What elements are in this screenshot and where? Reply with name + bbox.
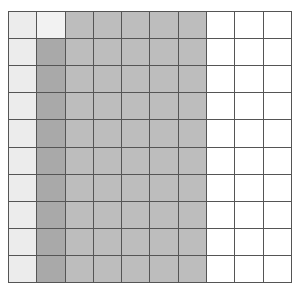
grid-cell xyxy=(122,12,150,39)
grid-cell xyxy=(122,39,150,66)
grid-cell xyxy=(207,148,235,175)
grid-cell xyxy=(235,202,263,229)
grid-cell xyxy=(9,39,37,66)
grid-cell xyxy=(122,66,150,93)
grid-cell xyxy=(235,148,263,175)
grid-cell xyxy=(37,175,65,202)
grid-cell xyxy=(66,256,94,283)
grid-cell xyxy=(179,175,207,202)
grid-cell xyxy=(207,93,235,120)
grid-cell xyxy=(66,12,94,39)
grid-cell xyxy=(150,66,178,93)
grid-cell xyxy=(9,120,37,147)
grid-cell xyxy=(150,229,178,256)
shaded-hundred-grid xyxy=(8,11,292,283)
grid-cell xyxy=(264,120,292,147)
grid-cell xyxy=(122,93,150,120)
grid-cell xyxy=(122,256,150,283)
grid-cell xyxy=(179,66,207,93)
grid-cell xyxy=(37,256,65,283)
grid-cell xyxy=(179,202,207,229)
grid-cell xyxy=(94,120,122,147)
grid-cell xyxy=(179,229,207,256)
grid-cell xyxy=(264,148,292,175)
grid-cell xyxy=(94,202,122,229)
grid-cell xyxy=(37,66,65,93)
grid-cell xyxy=(207,175,235,202)
grid-cell xyxy=(207,66,235,93)
grid-cell xyxy=(235,175,263,202)
grid-cell xyxy=(150,12,178,39)
grid-cell xyxy=(264,175,292,202)
grid-cell xyxy=(9,12,37,39)
grid-cell xyxy=(66,202,94,229)
grid-cell xyxy=(150,93,178,120)
grid-cell xyxy=(9,66,37,93)
grid-cell xyxy=(150,202,178,229)
grid-cell xyxy=(179,39,207,66)
grid-cell xyxy=(122,148,150,175)
grid-cell xyxy=(179,148,207,175)
grid-cell xyxy=(66,93,94,120)
grid-cell xyxy=(179,93,207,120)
grid-cell xyxy=(235,66,263,93)
grid-cell xyxy=(264,66,292,93)
grid-cell xyxy=(9,229,37,256)
grid-cell xyxy=(207,12,235,39)
grid-cell xyxy=(9,175,37,202)
grid-cell xyxy=(207,202,235,229)
grid-cell xyxy=(150,39,178,66)
grid-cell xyxy=(9,202,37,229)
grid-cell xyxy=(150,120,178,147)
grid-cell xyxy=(94,66,122,93)
grid-cell xyxy=(94,175,122,202)
grid-cell xyxy=(179,256,207,283)
grid-cell xyxy=(264,202,292,229)
grid-cell xyxy=(264,229,292,256)
grid-cell xyxy=(264,256,292,283)
grid-cell xyxy=(94,39,122,66)
grid-cell xyxy=(66,229,94,256)
grid-cell xyxy=(179,12,207,39)
grid-cell xyxy=(179,120,207,147)
grid-cell xyxy=(37,202,65,229)
grid-cell xyxy=(122,120,150,147)
grid-cell xyxy=(122,175,150,202)
grid-cell xyxy=(37,12,65,39)
grid-cell xyxy=(150,148,178,175)
grid-cell xyxy=(150,175,178,202)
grid-cell xyxy=(66,39,94,66)
grid-cell xyxy=(37,39,65,66)
grid-cell xyxy=(37,120,65,147)
grid-cell xyxy=(37,148,65,175)
grid-cell xyxy=(66,175,94,202)
grid-cell xyxy=(207,256,235,283)
grid-cell xyxy=(9,256,37,283)
grid-cell xyxy=(122,202,150,229)
grid-cell xyxy=(235,12,263,39)
grid-cell xyxy=(9,93,37,120)
grid-cell xyxy=(37,93,65,120)
grid-cell xyxy=(207,229,235,256)
grid-cell xyxy=(235,93,263,120)
grid-cell xyxy=(9,148,37,175)
grid-cell xyxy=(207,39,235,66)
grid-cell xyxy=(264,12,292,39)
grid-cell xyxy=(94,229,122,256)
grid-cell xyxy=(66,66,94,93)
grid-cell xyxy=(235,229,263,256)
grid-cell xyxy=(207,120,235,147)
grid-cell xyxy=(122,229,150,256)
grid-cell xyxy=(94,93,122,120)
grid-cell xyxy=(235,256,263,283)
grid-cell xyxy=(94,148,122,175)
grid-cell xyxy=(235,39,263,66)
grid-cell xyxy=(94,12,122,39)
grid-cell xyxy=(66,148,94,175)
grid-cell xyxy=(235,120,263,147)
grid-cell xyxy=(66,120,94,147)
grid-cell xyxy=(264,93,292,120)
grid-cell xyxy=(94,256,122,283)
grid-cell xyxy=(150,256,178,283)
grid-cell xyxy=(264,39,292,66)
